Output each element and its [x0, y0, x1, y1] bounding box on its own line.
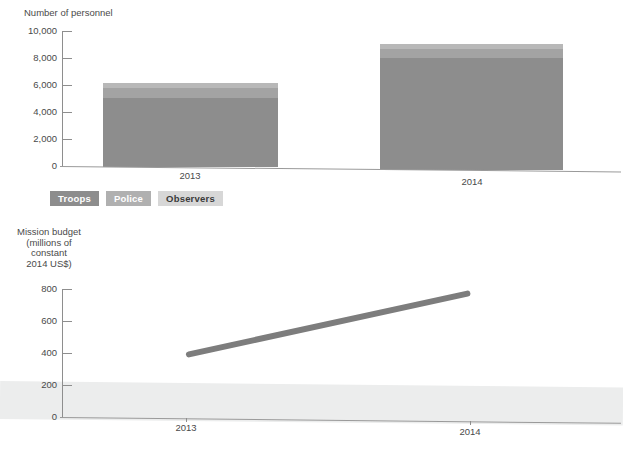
- legend-label-troops: Troops: [58, 193, 91, 204]
- personnel-y-axis-title: Number of personnel: [24, 8, 113, 19]
- personnel-ylabel-10000: 10,000: [0, 25, 57, 36]
- personnel-ylabel-8000: 8,000: [0, 52, 57, 63]
- personnel-ytick-10000: [62, 31, 72, 32]
- personnel-y-axis-line: [62, 31, 63, 167]
- budget-ytick-400: [62, 353, 72, 354]
- personnel-ylabel-0: 0: [0, 160, 57, 171]
- budget-ytick-200: [62, 385, 72, 386]
- legend-item-police[interactable]: Police: [106, 191, 151, 206]
- personnel-ylabel-2000: 2,000: [0, 133, 57, 144]
- budget-ylabel-800: 800: [0, 283, 57, 294]
- budget-ylabel-600: 600: [0, 315, 57, 326]
- personnel-ylabel-4000: 4,000: [0, 106, 57, 117]
- budget-trend-line: [185, 290, 471, 358]
- legend-label-police: Police: [114, 193, 143, 204]
- personnel-bar-2014-troops: [380, 58, 563, 170]
- budget-xlabel-2013: 2013: [156, 422, 216, 433]
- personnel-bar-2013: [103, 83, 278, 167]
- personnel-chart-figure: Number of personnel 10,000 8,000 6,000 4…: [0, 0, 623, 449]
- personnel-bar-2013-troops: [103, 98, 278, 167]
- budget-xtick-2014: [470, 421, 471, 425]
- personnel-xlabel-2013: 2013: [160, 170, 220, 181]
- legend-label-observers: Observers: [166, 193, 215, 204]
- personnel-bar-2014: [380, 44, 563, 170]
- budget-y-axis-title: Mission budget (millions of constant 201…: [8, 227, 90, 269]
- budget-ytick-800: [62, 289, 72, 290]
- personnel-xlabel-2014: 2014: [442, 176, 502, 187]
- budget-ylabel-200: 200: [0, 379, 57, 390]
- budget-chart: Mission budget (millions of constant 201…: [0, 215, 623, 449]
- personnel-ytick-4000: [62, 112, 72, 113]
- personnel-bar-2013-police: [103, 88, 278, 98]
- personnel-ytick-2000: [62, 139, 72, 140]
- personnel-ytick-8000: [62, 58, 72, 59]
- personnel-bar-2014-police: [380, 49, 563, 58]
- budget-ytick-600: [62, 321, 72, 322]
- personnel-ylabel-6000: 6,000: [0, 79, 57, 90]
- personnel-ytick-6000: [62, 85, 72, 86]
- budget-ylabel-400: 400: [0, 347, 57, 358]
- personnel-chart: Number of personnel 10,000 8,000 6,000 4…: [0, 0, 623, 215]
- legend-item-observers[interactable]: Observers: [158, 191, 223, 206]
- legend-item-troops[interactable]: Troops: [50, 191, 99, 206]
- budget-ylabel-0: 0: [0, 411, 57, 422]
- budget-xlabel-2014: 2014: [440, 426, 500, 437]
- personnel-legend: Troops Police Observers: [50, 191, 223, 206]
